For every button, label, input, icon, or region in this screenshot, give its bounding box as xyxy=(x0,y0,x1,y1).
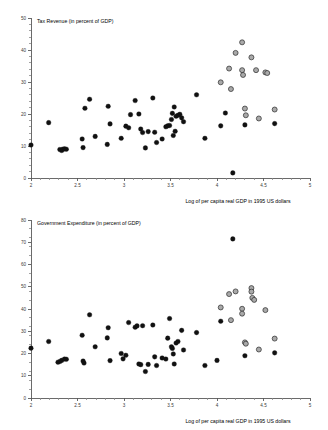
data-point xyxy=(228,87,233,92)
y-tick-label: 0 xyxy=(23,176,26,181)
data-point xyxy=(140,130,145,135)
data-point xyxy=(126,320,131,325)
panel-government-expenditure: 0102030405060708022.533.544.55 Governmen… xyxy=(0,212,328,430)
data-point xyxy=(181,348,186,353)
data-point xyxy=(203,363,208,368)
data-point xyxy=(93,345,98,350)
data-point xyxy=(87,312,92,317)
data-point xyxy=(171,133,176,138)
tick-labels: 0102030405022.533.544.55 xyxy=(21,16,312,189)
data-point xyxy=(241,72,246,77)
data-point xyxy=(133,98,138,103)
data-point xyxy=(80,137,85,142)
y-tick-label: 30 xyxy=(21,329,27,334)
data-point xyxy=(243,123,248,128)
data-point xyxy=(240,306,245,311)
data-point xyxy=(151,96,156,101)
data-point xyxy=(218,80,223,85)
data-point xyxy=(140,323,145,328)
data-point xyxy=(173,129,178,134)
data-point xyxy=(218,319,223,324)
data-point xyxy=(228,318,233,323)
data-point xyxy=(160,137,165,142)
y-tick-label: 10 xyxy=(21,144,27,149)
data-point xyxy=(105,142,110,147)
data-point xyxy=(256,347,261,352)
data-point xyxy=(171,352,176,357)
scatter-figure: 0102030405022.533.544.55 Tax Revenue (in… xyxy=(0,0,328,430)
data-point xyxy=(152,355,157,360)
x-tick-label: 4.5 xyxy=(260,403,267,408)
data-point xyxy=(218,124,223,129)
data-point xyxy=(146,362,151,367)
data-point xyxy=(108,358,113,363)
data-point xyxy=(272,351,277,356)
data-point xyxy=(154,363,159,368)
data-point xyxy=(154,140,159,145)
panel-title-top: Tax Revenue (in percent of GDP) xyxy=(37,18,114,24)
data-point xyxy=(172,362,177,367)
data-point xyxy=(119,351,124,356)
data-point xyxy=(249,55,254,60)
x-axis-caption-bottom: Log of per capita real GDP in 1995 US do… xyxy=(185,418,291,424)
data-point xyxy=(29,143,34,148)
data-point xyxy=(164,357,169,362)
data-point xyxy=(143,146,148,151)
data-point xyxy=(126,125,131,130)
data-point xyxy=(137,112,142,117)
data-point xyxy=(240,311,245,316)
y-tick-label: 40 xyxy=(21,48,27,53)
y-tick-label: 10 xyxy=(21,373,27,378)
data-point xyxy=(29,346,34,351)
data-point xyxy=(181,119,186,124)
x-tick-label: 2 xyxy=(30,183,33,188)
data-point xyxy=(87,97,92,102)
data-point xyxy=(105,336,110,341)
data-point xyxy=(46,120,51,125)
panel-tax-revenue: 0102030405022.533.544.55 Tax Revenue (in… xyxy=(0,0,328,210)
data-point xyxy=(218,305,223,310)
x-tick-label: 3.5 xyxy=(167,403,174,408)
data-point xyxy=(231,171,236,176)
data-point xyxy=(249,289,254,294)
data-point xyxy=(172,105,177,110)
data-point xyxy=(146,129,151,134)
tax-revenue-chart: 0102030405022.533.544.55 Tax Revenue (in… xyxy=(0,0,328,210)
data-point xyxy=(215,358,220,363)
x-tick-label: 2.5 xyxy=(74,403,81,408)
data-point xyxy=(263,308,268,313)
y-tick-label: 80 xyxy=(21,218,27,223)
data-point xyxy=(169,117,174,122)
data-point xyxy=(83,106,88,111)
data-point xyxy=(203,136,208,141)
data-point xyxy=(179,328,184,333)
data-point xyxy=(165,336,170,341)
data-point xyxy=(240,68,245,73)
x-tick-label: 5 xyxy=(309,403,312,408)
x-tick-label: 4.5 xyxy=(260,183,267,188)
y-tick-label: 40 xyxy=(21,307,27,312)
data-point xyxy=(240,40,245,45)
tick-marks xyxy=(28,18,310,181)
data-point xyxy=(243,353,248,358)
data-point xyxy=(106,104,111,109)
data-point xyxy=(81,145,86,150)
x-tick-label: 3.5 xyxy=(167,183,174,188)
x-tick-label: 4 xyxy=(216,403,219,408)
data-point xyxy=(194,330,199,335)
x-tick-label: 3 xyxy=(123,183,126,188)
data-point xyxy=(135,324,140,329)
data-point xyxy=(233,50,238,55)
x-tick-label: 3 xyxy=(123,403,126,408)
data-point xyxy=(272,107,277,112)
data-point xyxy=(272,121,277,126)
data-point xyxy=(227,66,232,71)
axes-bottom xyxy=(31,220,310,398)
data-point xyxy=(152,130,157,135)
data-point xyxy=(64,357,69,362)
data-point xyxy=(46,339,51,344)
data-point xyxy=(167,316,172,321)
government-expenditure-chart: 0102030405060708022.533.544.55 Governmen… xyxy=(0,212,328,430)
data-point xyxy=(138,362,143,367)
data-point xyxy=(82,361,87,366)
